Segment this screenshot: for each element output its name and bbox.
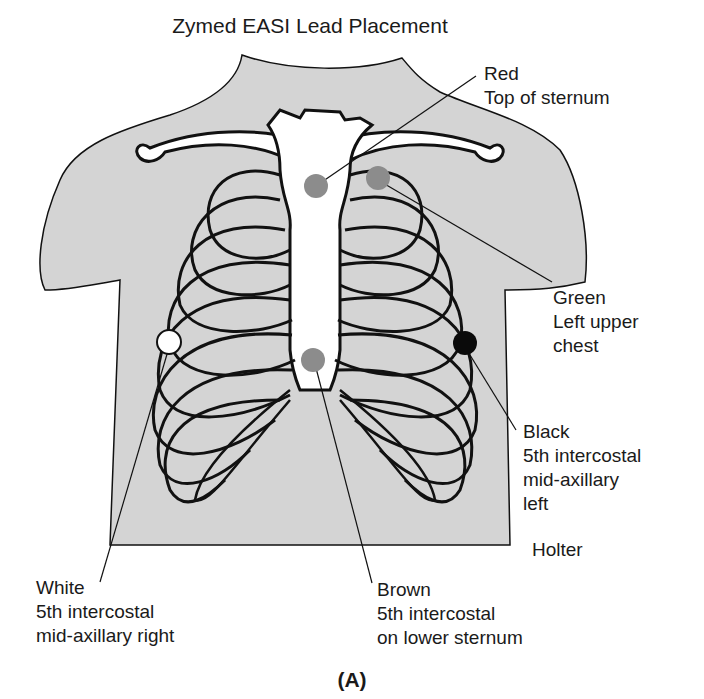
label-brown-location-1: 5th intercostal [377, 602, 523, 626]
label-black-location-2: mid-axillary [523, 468, 641, 492]
label-green-color: Green [553, 286, 639, 310]
electrode-red [304, 174, 328, 198]
label-brown-location-2: on lower sternum [377, 626, 523, 650]
electrode-black [453, 331, 477, 355]
label-brown-color: Brown [377, 578, 523, 602]
label-brown: Brown 5th intercostal on lower sternum [377, 578, 523, 650]
label-white-color: White [36, 576, 174, 600]
label-white-location-2: mid-axillary right [36, 624, 174, 648]
electrode-brown [301, 348, 325, 372]
label-black-location-3: left [523, 492, 641, 516]
label-holter: Holter [532, 538, 583, 562]
electrode-green [366, 166, 390, 190]
label-red: Red Top of sternum [484, 62, 610, 110]
label-red-location: Top of sternum [484, 86, 610, 110]
label-red-color: Red [484, 62, 610, 86]
label-white-location-1: 5th intercostal [36, 600, 174, 624]
figure-caption: (A) [0, 668, 704, 692]
label-black-location-1: 5th intercostal [523, 444, 641, 468]
label-black-color: Black [523, 420, 641, 444]
label-green-location-2: chest [553, 334, 639, 358]
electrode-white [157, 330, 181, 354]
label-white: White 5th intercostal mid-axillary right [36, 576, 174, 648]
label-green: Green Left upper chest [553, 286, 639, 358]
label-green-location-1: Left upper [553, 310, 639, 334]
label-black: Black 5th intercostal mid-axillary left [523, 420, 641, 516]
